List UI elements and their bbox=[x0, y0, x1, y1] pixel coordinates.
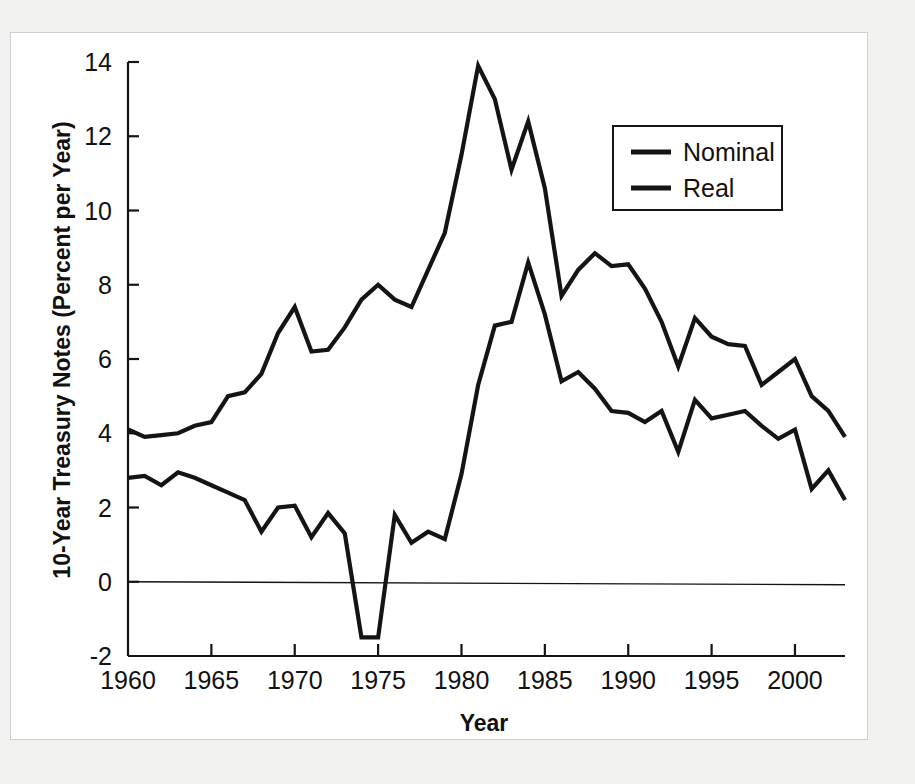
chart-legend[interactable]: NominalReal bbox=[613, 126, 782, 210]
y-tick-label: 6 bbox=[98, 345, 112, 373]
legend-label-nominal[interactable]: Nominal bbox=[683, 138, 775, 166]
y-tick-label: 8 bbox=[98, 271, 112, 299]
treasury-rates-line-chart: 10-Year Treasury Notes (Percent per Year… bbox=[0, 0, 915, 784]
x-tick-label: 1970 bbox=[267, 666, 323, 694]
x-tick-label: 1990 bbox=[600, 666, 656, 694]
y-tick-label: 10 bbox=[84, 197, 112, 225]
series-line-real bbox=[128, 262, 845, 637]
x-tick-label: 1975 bbox=[350, 666, 406, 694]
y-tick-label: 14 bbox=[84, 48, 112, 76]
page-background: 10-Year Treasury Notes (Percent per Year… bbox=[0, 0, 915, 784]
y-tick-label: 0 bbox=[98, 568, 112, 596]
y-axis-title: 10-Year Treasury Notes (Percent per Year… bbox=[49, 121, 75, 578]
y-tick-label: 4 bbox=[98, 419, 112, 447]
x-tick-label: 1965 bbox=[184, 666, 240, 694]
zero-reference-line bbox=[128, 582, 845, 585]
x-tick-label: 2000 bbox=[767, 666, 823, 694]
legend-label-real[interactable]: Real bbox=[683, 174, 734, 202]
x-tick-label: 1980 bbox=[434, 666, 490, 694]
x-axis-title: Year bbox=[460, 710, 509, 736]
y-tick-label: 2 bbox=[98, 494, 112, 522]
x-tick-label: 1985 bbox=[517, 666, 573, 694]
series-line-nominal bbox=[128, 66, 845, 437]
y-tick-label: 12 bbox=[84, 122, 112, 150]
x-tick-label: 1995 bbox=[684, 666, 740, 694]
x-tick-label: 1960 bbox=[100, 666, 156, 694]
